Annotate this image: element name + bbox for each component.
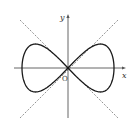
origin-point (67, 67, 70, 70)
origin-label: O (62, 75, 68, 83)
lemniscate-diagram: x y O (0, 0, 131, 126)
y-axis-arrow-icon (66, 14, 69, 18)
x-axis-label: x (122, 71, 127, 80)
y-axis-label: y (59, 13, 65, 22)
x-axis-arrow-icon (122, 66, 126, 69)
